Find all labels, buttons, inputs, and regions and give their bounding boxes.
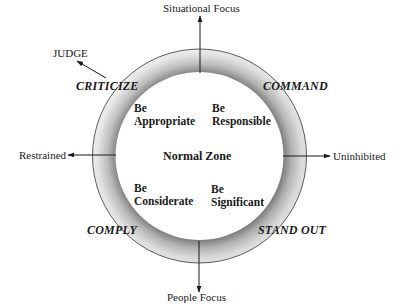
quadrant-bottom-right-line2: Significant — [211, 196, 264, 209]
quadrant-top-right-line1: Be — [212, 102, 271, 115]
axis-label-right: Uninhibited — [333, 151, 386, 162]
quadrant-bottom-left: Be Considerate — [134, 182, 193, 208]
quadrant-bottom-left-line1: Be — [134, 182, 193, 195]
quadrant-top-left: Be Appropriate — [134, 102, 195, 128]
judge-label: JUDGE — [53, 48, 88, 59]
quadrant-bottom-right-line1: Be — [211, 183, 264, 196]
ring-label-comply: COMPLY — [87, 224, 137, 236]
axis-label-top: Situational Focus — [163, 3, 240, 14]
quadrant-bottom-right: Be Significant — [211, 183, 264, 209]
quadrant-top-right: Be Responsible — [212, 102, 271, 128]
quadrant-top-left-line2: Appropriate — [134, 115, 195, 128]
arrow-judge-icon — [77, 61, 106, 78]
axis-label-left: Restrained — [19, 150, 66, 161]
quadrant-top-right-line2: Responsible — [212, 115, 271, 128]
quadrant-bottom-left-line2: Considerate — [134, 195, 193, 208]
ring-label-criticize: CRITICIZE — [76, 80, 139, 92]
center-label: Normal Zone — [163, 150, 231, 162]
ring-label-stand-out: STAND OUT — [258, 224, 326, 236]
ring-label-command: COMMAND — [263, 80, 328, 92]
quadrant-top-left-line1: Be — [134, 102, 195, 115]
axis-label-bottom: People Focus — [167, 292, 226, 303]
